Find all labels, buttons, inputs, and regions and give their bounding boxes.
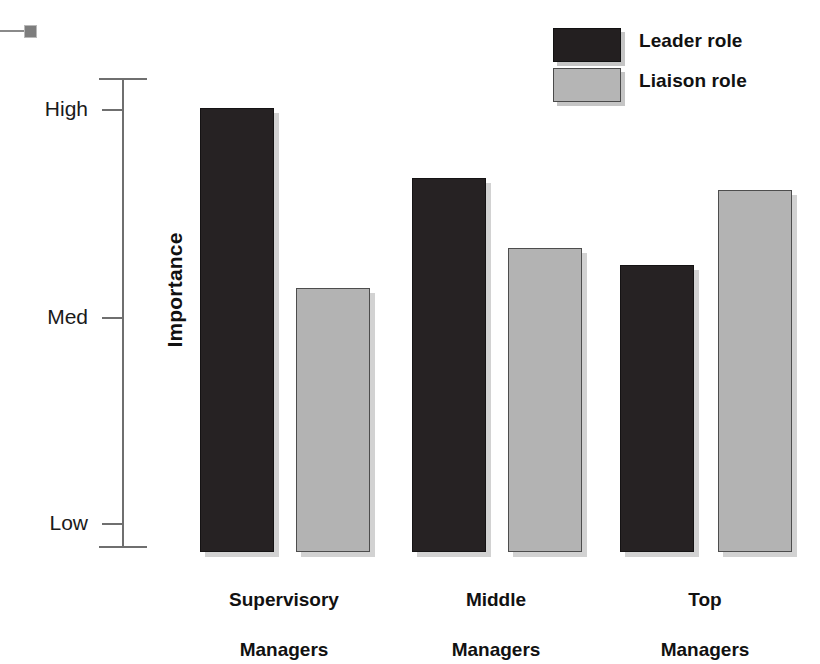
bar-leader-top[interactable]	[620, 265, 694, 552]
bar-leader-middle[interactable]	[412, 178, 486, 552]
x-category-label-supervisory: Supervisory Managers	[184, 562, 384, 664]
x-category-label-supervisory-line2: Managers	[184, 637, 384, 662]
x-category-label-supervisory-line1: Supervisory	[184, 587, 384, 612]
bar-leader-supervisory[interactable]	[200, 108, 274, 552]
bar-liaison-top[interactable]	[718, 190, 792, 552]
x-category-label-top-line2: Managers	[605, 637, 805, 662]
x-category-label-middle-line1: Middle	[396, 587, 596, 612]
bar-liaison-middle[interactable]	[508, 248, 582, 552]
bar-liaison-supervisory[interactable]	[296, 288, 370, 552]
x-category-label-middle: Middle Managers	[396, 562, 596, 664]
x-category-label-top: Top Managers	[605, 562, 805, 664]
x-category-label-top-line1: Top	[605, 587, 805, 612]
x-category-label-middle-line2: Managers	[396, 637, 596, 662]
